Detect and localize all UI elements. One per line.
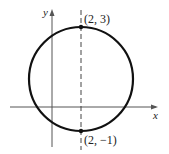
point-top (79, 25, 83, 29)
y-axis-label: y (43, 7, 48, 18)
point-label-bottom: (2, −1) (84, 134, 117, 146)
y-axis-arrow-icon (50, 9, 55, 16)
point-bottom (79, 129, 83, 133)
x-axis-label: x (153, 110, 158, 121)
point-label-top: (2, 3) (84, 13, 110, 25)
